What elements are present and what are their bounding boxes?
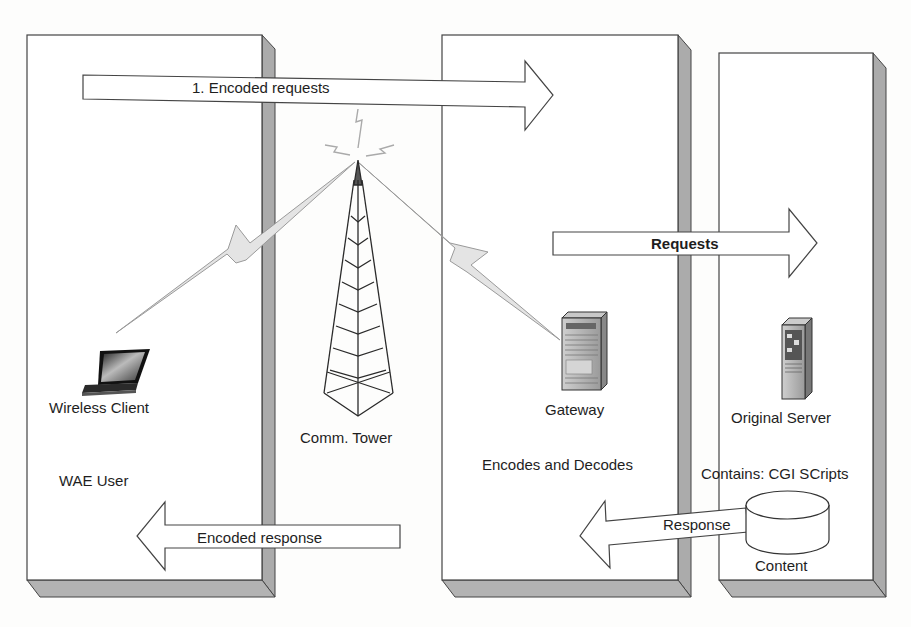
gateway-server-icon	[562, 312, 607, 390]
node-label-wireless-client: Wireless Client	[49, 400, 149, 415]
arrow-label-encoded-requests: 1. Encoded requests	[192, 80, 330, 95]
content-database-icon	[746, 491, 829, 554]
arrow-label-response: Response	[663, 517, 731, 532]
original-server-icon	[782, 318, 812, 399]
node-label-content: Content	[755, 558, 808, 573]
panel-label-encodes-decodes: Encodes and Decodes	[482, 457, 633, 472]
node-label-gateway: Gateway	[545, 402, 604, 417]
node-label-content-note: Contains: CGI SCripts	[701, 466, 849, 481]
panel-wae-user	[27, 35, 275, 597]
signal-waves-icon	[325, 109, 394, 156]
arrow-label-encoded-response: Encoded response	[197, 530, 322, 545]
comm-tower-icon	[324, 160, 393, 416]
arrow-label-requests: Requests	[651, 236, 719, 251]
panel-label-wae-user: WAE User	[59, 473, 128, 488]
node-label-original-server: Original Server	[731, 410, 831, 425]
node-label-comm-tower: Comm. Tower	[300, 430, 392, 445]
